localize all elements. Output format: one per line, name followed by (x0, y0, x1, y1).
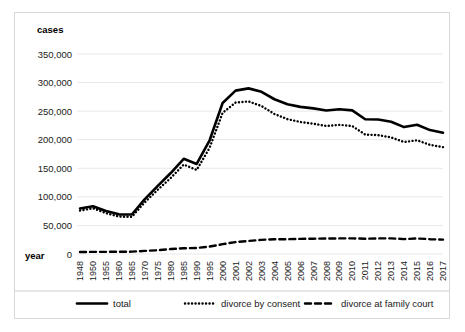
x-axis-tick-label: 2010 (347, 261, 357, 281)
x-axis-tick-label: 1995 (205, 261, 215, 281)
x-axis-tick-label: 1990 (192, 261, 202, 281)
x-axis-tick-label: 2002 (244, 261, 254, 281)
data-series (80, 88, 443, 252)
x-axis-tick-label: 1985 (179, 261, 189, 281)
y-axis-tick-label: 50,000 (43, 220, 72, 231)
legend-label-divorce-by-consent: divorce by consent (221, 298, 301, 309)
x-axis-tick-label: 2006 (296, 261, 306, 281)
x-axis-title: year (25, 250, 45, 261)
x-axis-tick-label: 1965 (127, 261, 137, 281)
y-axis-tick-label: 300,000 (38, 77, 72, 88)
x-axis-tick-label: 2005 (283, 261, 293, 281)
y-axis-tick-label: 350,000 (38, 49, 72, 60)
y-axis-tick-label: 150,000 (38, 163, 72, 174)
x-axis-tick-label: 2008 (322, 261, 332, 281)
x-axis-tick-label: 2004 (270, 261, 280, 281)
series-line-divorce-by-consent (80, 101, 443, 216)
x-axis-tick-label: 1980 (166, 261, 176, 281)
x-axis-tick-labels: 1948195019551960196519701975198019851990… (75, 261, 448, 281)
x-axis-tick-label: 1948 (75, 261, 85, 281)
x-axis-tick-label: 2007 (309, 261, 319, 281)
x-axis-tick-label: 2015 (412, 261, 422, 281)
chart-legend: totaldivorce by consentdivorce at family… (77, 298, 434, 309)
x-axis-tick-label: 2011 (360, 261, 370, 280)
x-axis-tick-label: 1970 (140, 261, 150, 281)
y-axis-tick-label: 250,000 (38, 106, 72, 117)
x-axis-tick-label: 2017 (438, 261, 448, 281)
y-axis-title: cases (37, 24, 63, 35)
gridlines (77, 54, 443, 254)
series-line-divorce-at-family-court (80, 238, 443, 252)
x-axis-tick-label: 1960 (114, 261, 124, 281)
x-axis-tick-label: 2013 (386, 261, 396, 281)
line-chart: 050,000100,000150,000200,000250,000300,0… (15, 13, 449, 318)
x-axis-tick-label: 2009 (334, 261, 344, 281)
y-axis-tick-label: 200,000 (38, 134, 72, 145)
chart-container: 050,000100,000150,000200,000250,000300,0… (14, 12, 450, 319)
x-axis-tick-label: 2012 (373, 261, 383, 281)
x-axis-tick-label: 2001 (231, 261, 241, 281)
x-axis-tick-label: 1975 (153, 261, 163, 281)
x-axis-tick-label: 2003 (257, 261, 267, 281)
legend-label-total: total (113, 298, 131, 309)
y-axis-tick-label: 0 (67, 249, 72, 260)
legend-label-divorce-at-family-court: divorce at family court (341, 298, 434, 309)
x-axis-tick-label: 2014 (399, 261, 409, 281)
x-axis-tick-label: 2016 (425, 261, 435, 281)
x-axis-tick-label: 2000 (218, 261, 228, 281)
x-axis-tick-label: 1950 (88, 261, 98, 281)
y-axis-tick-labels: 050,000100,000150,000200,000250,000300,0… (38, 49, 72, 260)
y-axis-tick-label: 100,000 (38, 191, 72, 202)
x-axis-tick-label: 1955 (101, 261, 111, 281)
